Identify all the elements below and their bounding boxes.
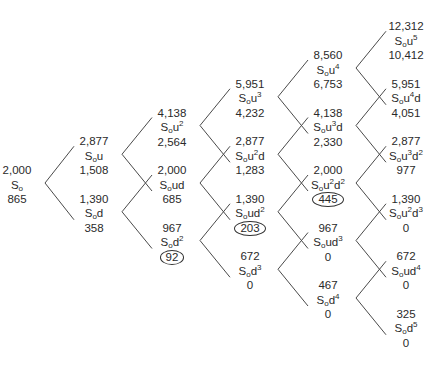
node-label: Sou2d3 bbox=[376, 206, 428, 221]
node-price: 5,951 bbox=[376, 77, 428, 92]
option-value: 0 bbox=[325, 251, 331, 263]
tree-node: 5,951Sou34,232 bbox=[220, 77, 280, 121]
node-label: Soud bbox=[142, 178, 202, 193]
early-exercise-value: 445 bbox=[312, 192, 343, 207]
node-price: 2,877 bbox=[220, 134, 280, 149]
option-value: 865 bbox=[7, 193, 26, 205]
node-price: 672 bbox=[220, 249, 280, 264]
node-price: 967 bbox=[298, 221, 358, 236]
node-label: Soud2 bbox=[220, 206, 280, 221]
node-label: Sou4 bbox=[298, 63, 358, 78]
tree-node: 2,877Sou2d1,283 bbox=[220, 134, 280, 178]
tree-node: 1,390Soud2203 bbox=[220, 192, 280, 236]
option-value: 6,753 bbox=[314, 78, 343, 90]
node-label: So bbox=[0, 178, 47, 193]
early-exercise-value: 203 bbox=[234, 221, 265, 236]
tree-node: 8,560Sou46,753 bbox=[298, 48, 358, 92]
tree-node: 467Sod40 bbox=[298, 278, 358, 322]
option-value: 2,564 bbox=[158, 136, 187, 148]
node-label: Soud3 bbox=[298, 235, 358, 250]
tree-node: 2,877Sou1,508 bbox=[64, 134, 124, 178]
tree-node: 2,000So865 bbox=[0, 163, 47, 207]
node-price: 5,951 bbox=[220, 77, 280, 92]
tree-edges bbox=[0, 0, 428, 367]
node-label: Sou bbox=[64, 149, 124, 164]
option-value: 0 bbox=[403, 337, 409, 349]
node-label: Sod5 bbox=[376, 321, 428, 336]
option-value: 0 bbox=[247, 279, 253, 291]
node-label: Sod3 bbox=[220, 264, 280, 279]
tree-node: 672Soud40 bbox=[376, 249, 428, 293]
option-value: 0 bbox=[403, 222, 409, 234]
tree-node: 2,000Soud685 bbox=[142, 163, 202, 207]
node-label: Sou2d2 bbox=[298, 178, 358, 193]
node-price: 2,000 bbox=[298, 163, 358, 178]
tree-node: 1,390Sou2d30 bbox=[376, 192, 428, 236]
option-value: 0 bbox=[325, 308, 331, 320]
node-price: 1,390 bbox=[220, 192, 280, 207]
tree-node: 12,312Sou510,412 bbox=[376, 19, 428, 63]
node-label: Sou2d bbox=[220, 149, 280, 164]
node-price: 967 bbox=[142, 221, 202, 236]
option-value: 1,283 bbox=[236, 164, 265, 176]
node-label: Sou3 bbox=[220, 91, 280, 106]
option-value: 0 bbox=[403, 279, 409, 291]
node-price: 2,000 bbox=[0, 163, 47, 178]
node-price: 467 bbox=[298, 278, 358, 293]
tree-node: 1,390Sod358 bbox=[64, 192, 124, 236]
tree-node: 967Sod292 bbox=[142, 221, 202, 265]
node-label: Sou5 bbox=[376, 34, 428, 49]
tree-node: 4,138Sou22,564 bbox=[142, 106, 202, 150]
node-label: Sod2 bbox=[142, 235, 202, 250]
node-label: Sou3d bbox=[298, 120, 358, 135]
option-value: 2,330 bbox=[314, 136, 343, 148]
node-price: 1,390 bbox=[64, 192, 124, 207]
tree-node: 2,000Sou2d2445 bbox=[298, 163, 358, 207]
early-exercise-value: 92 bbox=[160, 250, 185, 265]
node-price: 1,390 bbox=[376, 192, 428, 207]
node-price: 2,877 bbox=[64, 134, 124, 149]
option-value: 4,051 bbox=[392, 107, 421, 119]
node-price: 12,312 bbox=[376, 19, 428, 34]
node-label: Sod bbox=[64, 206, 124, 221]
node-price: 2,000 bbox=[142, 163, 202, 178]
node-price: 4,138 bbox=[298, 106, 358, 121]
tree-node: 4,138Sou3d2,330 bbox=[298, 106, 358, 150]
node-price: 8,560 bbox=[298, 48, 358, 63]
tree-node: 2,877Sou3d2977 bbox=[376, 134, 428, 178]
option-value: 1,508 bbox=[80, 164, 109, 176]
node-price: 672 bbox=[376, 249, 428, 264]
tree-node: 967Soud30 bbox=[298, 221, 358, 265]
tree-node: 325Sod50 bbox=[376, 307, 428, 351]
tree-node: 672Sod30 bbox=[220, 249, 280, 293]
option-value: 977 bbox=[396, 164, 415, 176]
option-value: 358 bbox=[84, 222, 103, 234]
option-value: 10,412 bbox=[388, 49, 423, 61]
node-price: 2,877 bbox=[376, 134, 428, 149]
node-price: 4,138 bbox=[142, 106, 202, 121]
node-price: 325 bbox=[376, 307, 428, 322]
node-label: Sod4 bbox=[298, 293, 358, 308]
option-value: 4,232 bbox=[236, 107, 265, 119]
node-label: Sou3d2 bbox=[376, 149, 428, 164]
node-label: Sou2 bbox=[142, 120, 202, 135]
tree-node: 5,951Sou4d4,051 bbox=[376, 77, 428, 121]
option-value: 685 bbox=[162, 193, 181, 205]
node-label: Soud4 bbox=[376, 264, 428, 279]
node-label: Sou4d bbox=[376, 91, 428, 106]
